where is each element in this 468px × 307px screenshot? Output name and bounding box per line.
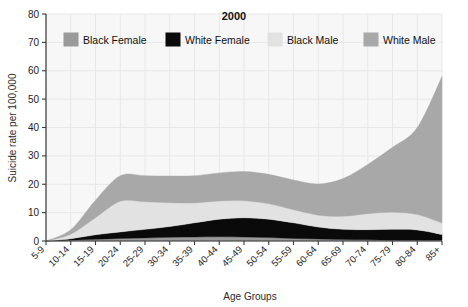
legend-label-white-female: White Female [185, 34, 250, 46]
y-tick-label: 40 [28, 122, 40, 133]
chart-container: 01020304050607080 5-910-1415-1920-2425-2… [0, 0, 468, 307]
legend-swatch-white-female [166, 33, 180, 46]
legend-label-black-male: Black Male [287, 34, 339, 46]
legend-swatch-white-male [364, 33, 378, 46]
y-tick-label: 30 [28, 150, 40, 161]
y-tick-label: 70 [28, 37, 40, 48]
legend-swatch-black-female [64, 33, 78, 46]
suicide-rate-area-chart: 01020304050607080 5-910-1415-1920-2425-2… [0, 0, 468, 307]
legend-swatch-black-male [268, 33, 282, 46]
y-tick-label: 80 [28, 9, 40, 20]
y-axis-label: Suicide rate per 100,000 [7, 73, 18, 182]
y-tick-label: 60 [28, 65, 40, 76]
legend-label-black-female: Black Female [83, 34, 147, 46]
y-tick-label: 50 [28, 94, 40, 105]
chart-title: 2000 [222, 10, 246, 22]
x-axis-label: Age Groups [223, 291, 276, 302]
legend-label-white-male: White Male [383, 34, 436, 46]
y-tick-label: 10 [28, 207, 40, 218]
y-tick-label: 20 [28, 179, 40, 190]
